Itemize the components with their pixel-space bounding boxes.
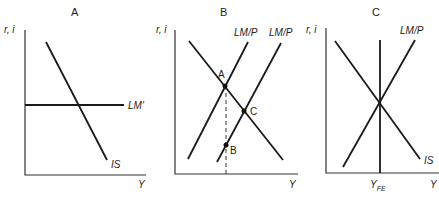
panel-b-y-axis-label: r, i: [156, 24, 167, 35]
panel-b: B r, i Y LM/P LM/P A C B: [156, 6, 298, 190]
panel-b-is-curve: [189, 41, 283, 160]
panel-c-axes: [326, 28, 439, 173]
panel-a-title: A: [71, 6, 79, 18]
panel-b-point-c: [242, 109, 247, 114]
panel-c-is-label: IS: [424, 155, 434, 166]
panel-c-yfe-label: YFE: [370, 179, 386, 192]
panel-b-lm1-label: LM/P: [234, 27, 258, 38]
panel-b-lm1-curve: [188, 42, 248, 159]
panel-c-x-axis-label: Y: [430, 179, 438, 190]
panel-c-is-curve: [335, 41, 420, 159]
panel-b-point-b-label: B: [230, 145, 237, 156]
panel-a-lm-label: LM': [128, 100, 145, 111]
panel-c-lm-label: LM/P: [400, 25, 424, 36]
panel-b-title: B: [220, 6, 227, 18]
panel-b-point-a-label: A: [218, 69, 225, 80]
panel-c: C r, i Y LM/P IS YFE: [306, 6, 439, 192]
panel-a-x-axis-label: Y: [138, 179, 146, 190]
panel-b-point-a: [223, 84, 228, 89]
panel-a: A r, i Y LM' IS: [4, 6, 146, 190]
panel-c-y-axis-label: r, i: [306, 24, 317, 35]
panel-c-lm-curve: [343, 40, 415, 167]
panel-c-yfe-sub: FE: [377, 185, 386, 192]
panel-c-title: C: [372, 6, 380, 18]
islm-diagram: A r, i Y LM' IS B r, i Y LM/P LM/P A C B…: [0, 0, 439, 199]
panel-b-x-axis-label: Y: [289, 179, 297, 190]
panel-a-is-curve: [46, 42, 107, 160]
panel-b-point-b: [224, 143, 229, 148]
panel-a-y-axis-label: r, i: [4, 24, 15, 35]
panel-b-point-c-label: C: [250, 106, 257, 117]
panel-a-is-label: IS: [111, 159, 121, 170]
panel-b-lm2-label: LM/P: [269, 27, 293, 38]
